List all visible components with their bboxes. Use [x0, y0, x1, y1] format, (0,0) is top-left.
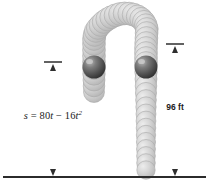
trail-right-column	[135, 22, 158, 180]
ball-ascending	[83, 56, 106, 79]
projectile-motion-figure: s = 80t − 16t2 96 ft	[0, 0, 209, 193]
height-label: 96 ft	[160, 103, 190, 112]
equation-exponent: 2	[79, 109, 83, 117]
figure-canvas	[0, 0, 209, 193]
ball-descending	[135, 56, 158, 79]
equation-coeff-quadratic: 16	[65, 110, 76, 121]
equation-label: s = 80t − 16t2	[17, 111, 89, 122]
equation-coeff-linear: 80	[40, 110, 51, 121]
projectile-trail	[83, 2, 159, 179]
